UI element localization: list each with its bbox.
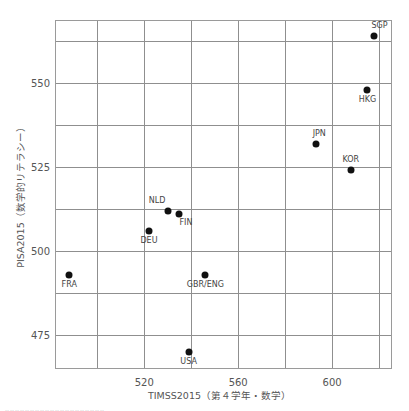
data-point-nld (164, 207, 171, 214)
y-tick-label: 550 (26, 77, 50, 88)
point-label: KOR (342, 155, 359, 164)
plot-frame (55, 20, 392, 369)
data-point-sgp (371, 32, 378, 39)
y-axis-label: PISA2015（数学的リテラシー） (13, 122, 27, 267)
point-label: FIN (179, 218, 192, 227)
data-point-kor (347, 167, 354, 174)
y-tick-label: 475 (26, 330, 50, 341)
data-point-hkg (364, 86, 371, 93)
point-label: NLD (149, 196, 166, 205)
x-tick-label: 560 (229, 377, 248, 388)
point-label: SGP (371, 21, 387, 30)
x-tick-label: 600 (323, 377, 342, 388)
point-label: GBR/ENG (187, 280, 224, 289)
x-tick-label: 520 (135, 377, 154, 388)
data-point-fra (66, 271, 73, 278)
point-label: HKG (359, 95, 376, 104)
point-label: FRA (62, 280, 77, 289)
point-label: DEU (140, 236, 157, 245)
point-label: USA (180, 357, 197, 366)
scatter-chart: 520560600475500525550 SGPHKGJPNKORNLDFIN… (0, 0, 409, 411)
x-axis-label: TIMSS2015（第４学年・数学） (0, 388, 409, 402)
data-point-usa (185, 349, 192, 356)
cropped-caption: ‥‥‥‥‥‥‥‥‥‥‥‥‥‥‥‥‥‥‥‥ (5, 405, 105, 411)
data-point-fin (176, 211, 183, 218)
y-tick-label: 525 (26, 162, 50, 173)
point-label: JPN (313, 129, 326, 138)
y-tick-label: 500 (26, 246, 50, 257)
data-point-gbr-eng (202, 271, 209, 278)
data-point-deu (145, 228, 152, 235)
data-point-jpn (312, 140, 319, 147)
